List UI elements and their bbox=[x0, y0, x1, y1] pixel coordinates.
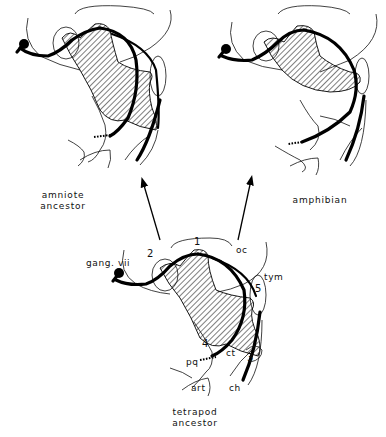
caption-tetrapod-ancestor: tetrapod ancestor bbox=[160, 407, 230, 429]
label-gang-vii: gang. vii bbox=[86, 258, 130, 268]
caption-line-1: amniote bbox=[28, 190, 98, 201]
caption-amphibian: amphibian bbox=[280, 195, 360, 206]
label-number-1: 1 bbox=[194, 236, 200, 247]
outline-art bbox=[80, 150, 111, 168]
outline-art bbox=[290, 158, 319, 175]
hatched-palatoquadrate bbox=[62, 24, 157, 130]
tetrapod-ancestor-panel bbox=[113, 238, 267, 396]
outline-lower-2 bbox=[275, 146, 306, 172]
label-tym: tym bbox=[264, 272, 283, 282]
caption-line-2: ancestor bbox=[28, 201, 98, 212]
outline-oc bbox=[75, 6, 154, 14]
caption-line-1: amphibian bbox=[280, 195, 360, 206]
evolution-diagram bbox=[0, 0, 386, 437]
outline-oc bbox=[171, 238, 232, 248]
amphibian-panel bbox=[219, 6, 377, 175]
pq-dotted-line bbox=[94, 135, 110, 137]
label-number-2: 2 bbox=[147, 248, 153, 259]
label-number-3: 3 bbox=[247, 352, 253, 363]
pq-dotted-line bbox=[288, 142, 302, 144]
nerve-outer-arc bbox=[212, 258, 256, 296]
chorda-lower bbox=[346, 96, 364, 160]
arrow-to-amphibian bbox=[238, 180, 251, 240]
hatched-palatoquadrate bbox=[264, 26, 360, 92]
label-art: art bbox=[191, 383, 206, 393]
ganglion-stub bbox=[17, 46, 22, 52]
amniote-ancestor-panel bbox=[17, 6, 171, 168]
label-oc: oc bbox=[236, 245, 248, 255]
outline-lower-2 bbox=[68, 140, 84, 166]
caption-line-1: tetrapod bbox=[160, 407, 230, 418]
arrow-to-amniote bbox=[143, 182, 160, 240]
outline-oc bbox=[278, 6, 350, 14]
label-number-4: 4 bbox=[202, 338, 208, 349]
pq-dotted-line bbox=[200, 357, 216, 360]
label-pq: pq bbox=[186, 357, 199, 367]
label-number-5: 5 bbox=[255, 283, 261, 294]
label-ch: ch bbox=[229, 383, 241, 393]
label-ct: ct bbox=[226, 348, 236, 358]
caption-amniote-ancestor: amniote ancestor bbox=[28, 190, 98, 212]
caption-line-2: ancestor bbox=[160, 418, 230, 429]
outline-lower-2 bbox=[170, 368, 192, 378]
